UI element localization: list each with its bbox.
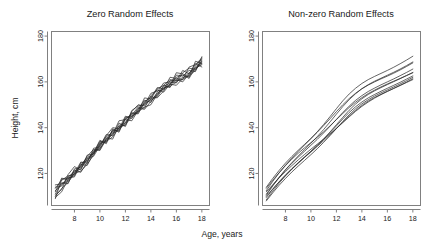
growth-curves-figure: Zero Random Effects 120140160180 Height,…: [0, 0, 444, 243]
panel-title-right: Non-zero Random Effects: [288, 9, 394, 19]
x-tick-label: 18: [409, 214, 417, 223]
figure-background: [0, 0, 444, 243]
y-tick-label: 140: [247, 122, 256, 134]
y-axis-title: Height, cm: [10, 97, 20, 138]
x-tick-label: 8: [72, 214, 76, 223]
x-tick-label: 12: [121, 214, 129, 223]
panel-title-left: Zero Random Effects: [87, 9, 174, 19]
x-axis-title: Age, years: [201, 229, 242, 239]
x-tick-label: 18: [198, 214, 206, 223]
x-tick-label: 10: [307, 214, 315, 223]
x-tick-label: 14: [358, 214, 366, 223]
y-tick-label: 180: [247, 30, 256, 42]
y-tick-label: 120: [247, 167, 256, 179]
x-tick-label: 16: [383, 214, 391, 223]
y-tick-label: 140: [36, 122, 45, 134]
x-tick-label: 12: [332, 214, 340, 223]
x-tick-label: 14: [147, 214, 155, 223]
y-tick-label: 180: [36, 30, 45, 42]
x-tick-label: 8: [283, 214, 287, 223]
y-tick-label: 120: [36, 167, 45, 179]
x-tick-label: 16: [172, 214, 180, 223]
y-tick-label: 160: [36, 76, 45, 88]
y-tick-label: 160: [247, 76, 256, 88]
x-tick-label: 10: [96, 214, 104, 223]
